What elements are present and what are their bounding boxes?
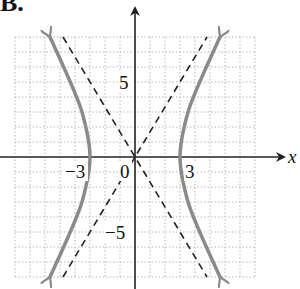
tick-label-x-neg3: −3: [65, 161, 85, 182]
x-axis-label: x: [287, 146, 297, 167]
tick-label-y-5: 5: [119, 72, 129, 93]
hyperbola-graph: −3 0 3 5 −5 x: [0, 0, 300, 289]
tick-label-origin: 0: [120, 161, 130, 182]
tick-label-x-3: 3: [185, 161, 195, 182]
tick-label-y-neg5: −5: [105, 222, 125, 243]
